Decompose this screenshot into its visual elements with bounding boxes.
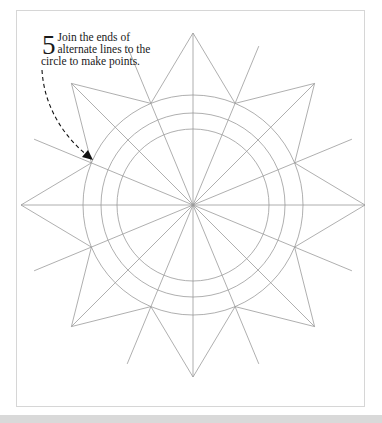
radial-line	[127, 205, 193, 364]
radial-line	[193, 205, 315, 327]
dashed-arrow	[42, 70, 93, 160]
radial-line	[193, 205, 259, 364]
radial-line	[34, 139, 193, 205]
step-instruction: 5 Join the ends of alternate lines to th…	[42, 32, 172, 68]
radial-line	[193, 139, 352, 205]
instruction-line-1: Join the ends of	[42, 32, 172, 44]
radial-line	[34, 205, 193, 271]
radial-line	[193, 205, 352, 271]
radial-line	[193, 83, 315, 205]
radial-line	[127, 46, 193, 205]
radial-line	[71, 205, 193, 327]
arrowhead-icon	[82, 150, 93, 160]
radial-line	[71, 83, 193, 205]
instruction-line-2: alternate lines to the	[42, 44, 172, 56]
step-number: 5	[42, 34, 56, 56]
bottom-bar	[0, 415, 382, 423]
instruction-line-3: circle to make points.	[41, 56, 172, 68]
radial-lines	[21, 33, 365, 377]
radial-line	[193, 46, 259, 205]
